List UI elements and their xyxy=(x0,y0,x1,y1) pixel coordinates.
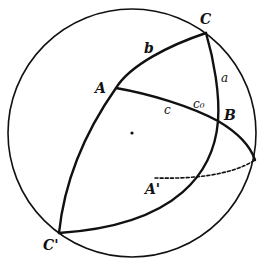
label-side-b: b xyxy=(144,40,154,56)
arc-a-b xyxy=(116,88,255,160)
arc-c-b-cprime xyxy=(59,33,218,233)
label-point-a: A xyxy=(93,80,106,96)
label-side-c: c xyxy=(164,103,171,117)
label-side-c0: c₀ xyxy=(193,97,205,111)
label-point-c: C xyxy=(200,11,211,27)
label-point-cprime: C' xyxy=(43,237,58,253)
label-side-a: a xyxy=(221,71,228,85)
spherical-triangle-diagram: C A B C' A' b a c c₀ xyxy=(0,0,262,268)
label-point-b: B xyxy=(223,107,236,123)
label-point-aprime: A' xyxy=(143,181,160,197)
sphere-center-dot xyxy=(130,131,133,134)
